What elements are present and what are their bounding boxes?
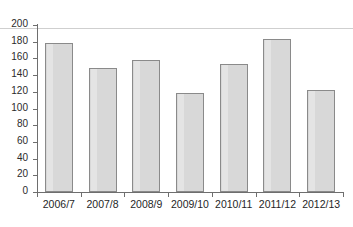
y-axis-tick-label: 160 — [11, 52, 28, 62]
x-axis-category-label: 2010/11 — [212, 198, 256, 210]
x-axis-category-label: 2012/13 — [299, 198, 343, 210]
x-axis-line — [37, 192, 343, 193]
x-axis-tick-mark — [299, 192, 300, 197]
x-axis-category-label: 2007/8 — [81, 198, 125, 210]
x-axis-tick-mark — [168, 192, 169, 197]
x-axis-tick-mark — [256, 192, 257, 197]
y-axis-tick-label: 140 — [11, 69, 28, 79]
y-axis-tick-label: 40 — [17, 153, 28, 163]
y-axis-tick-label: 0 — [22, 186, 28, 196]
x-axis-category-label: 2009/10 — [168, 198, 212, 210]
x-axis: 2006/72007/82008/92009/102010/112011/122… — [37, 198, 343, 218]
x-axis-tick-mark — [37, 192, 38, 197]
x-axis-tick-mark — [343, 192, 344, 197]
bar-slot — [256, 25, 300, 192]
y-axis-tick-label: 180 — [11, 36, 28, 46]
bar-slot — [299, 25, 343, 192]
y-axis-tick-label: 60 — [17, 136, 28, 146]
bar-slot — [212, 25, 256, 192]
bar[interactable] — [307, 90, 335, 192]
bar-slot — [168, 25, 212, 192]
y-axis-tick-label: 120 — [11, 86, 28, 96]
bar-chart: 020406080100120140160180200 2006/72007/8… — [0, 0, 353, 227]
y-axis: 020406080100120140160180200 — [0, 25, 37, 192]
bar[interactable] — [45, 43, 73, 192]
bar-slot — [37, 25, 81, 192]
x-axis-tick-mark — [124, 192, 125, 197]
y-axis-tick-label: 100 — [11, 103, 28, 113]
bar[interactable] — [132, 60, 160, 192]
x-axis-tick-mark — [81, 192, 82, 197]
bars-layer — [37, 25, 343, 192]
y-axis-tick-label: 200 — [11, 19, 28, 29]
x-axis-category-label: 2008/9 — [124, 198, 168, 210]
x-axis-tick-mark — [212, 192, 213, 197]
bar[interactable] — [89, 68, 117, 192]
bar-slot — [124, 25, 168, 192]
bar[interactable] — [263, 39, 291, 192]
y-axis-tick-label: 80 — [17, 119, 28, 129]
y-axis-tick-label: 20 — [17, 169, 28, 179]
bar[interactable] — [176, 93, 204, 192]
bar[interactable] — [220, 64, 248, 192]
x-axis-category-label: 2006/7 — [37, 198, 81, 210]
bar-slot — [81, 25, 125, 192]
x-axis-category-label: 2011/12 — [256, 198, 300, 210]
